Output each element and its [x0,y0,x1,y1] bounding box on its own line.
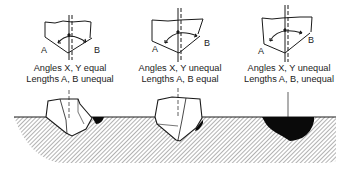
caption-middle: Angles X, Y unequal Lengths A, B equal [128,63,232,85]
caption-right-line2: Lengths A, B, unequal [236,74,342,85]
label-a-right: A [258,46,264,56]
caption-middle-line1: Angles X, Y unequal [128,63,232,74]
drill-point-middle [152,8,203,62]
drill-point-left [45,15,92,60]
caption-right-line1: Angles X, Y unequal [236,63,342,74]
caption-left-line2: Lengths A, B unequal [18,74,122,85]
label-b-middle: B [204,38,210,48]
label-a-left: A [41,45,47,55]
drill-point-diagram [0,0,350,172]
label-a-middle: A [152,44,158,54]
caption-middle-line2: Lengths A, B equal [128,74,232,85]
caption-right: Angles X, Y unequal Lengths A, B, unequa… [236,63,342,85]
drill-point-right [262,5,312,62]
caption-left-line1: Angles X, Y equal [18,63,122,74]
label-b-right: B [308,35,314,45]
caption-left: Angles X, Y equal Lengths A, B unequal [18,63,122,85]
label-b-left: B [94,45,100,55]
